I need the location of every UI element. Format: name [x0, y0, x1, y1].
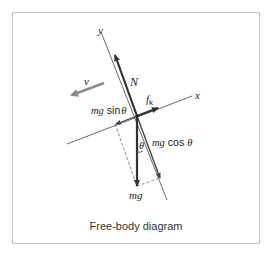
y-axis [101, 32, 167, 200]
angle-label: θ [139, 140, 144, 151]
normal-force-label: N [129, 75, 139, 89]
mg-cos-label: mgcosθ [152, 136, 192, 148]
weight-label: mg [129, 189, 143, 201]
mg-sin-arrow [116, 116, 137, 124]
velocity-label: v [84, 75, 89, 87]
dashed-guide-bottom [137, 178, 160, 186]
origin-point [135, 114, 138, 117]
diagram-caption: Free-body diagram [12, 220, 260, 232]
friction-label: fk [146, 93, 154, 107]
mg-sin-label: mgsinθ [91, 104, 126, 116]
x-axis-label: x [194, 89, 200, 101]
dashed-guide-left [115, 124, 137, 186]
y-axis-label: y [97, 24, 103, 36]
free-body-diagram: y x N fk mgsinθ mgcosθ θ mg v [0, 0, 272, 256]
friction-arrow [137, 108, 158, 116]
